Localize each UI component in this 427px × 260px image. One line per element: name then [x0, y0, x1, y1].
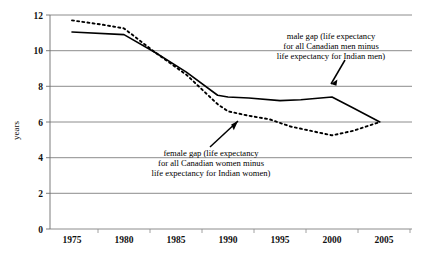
- female-gap-annotation-line-1: female gap (life expectancy: [118, 148, 304, 158]
- y-axis-ticks: [46, 15, 50, 229]
- x-tick-label-1995: 1995: [271, 235, 290, 245]
- x-tick-label-1980: 1980: [115, 235, 134, 245]
- male-gap-annotation: male gap (life expectancy for all Canadi…: [238, 31, 424, 62]
- female-gap-annotation-line-2: for all Canadian women minus: [118, 158, 304, 168]
- male-gap-annotation-line-3: life expectancy for Indian men): [238, 51, 424, 61]
- x-tick-label-2000: 2000: [323, 235, 342, 245]
- female-gap-annotation-line-3: life expectancy for Indian women): [118, 168, 304, 178]
- male-gap-arrow-icon: [331, 60, 345, 86]
- y-axis-title: years: [11, 121, 21, 140]
- y-tick-label-8: 8: [38, 82, 43, 92]
- female-gap-arrow-icon: [210, 121, 238, 147]
- x-tick-label-1985: 1985: [167, 235, 186, 245]
- female-gap-annotation: female gap (life expectancy for all Cana…: [118, 148, 304, 179]
- y-tick-label-2: 2: [38, 189, 43, 199]
- male-gap-annotation-line-2: for all Canadian men minus: [238, 41, 424, 51]
- y-tick-label-0: 0: [38, 225, 43, 235]
- x-tick-label-2005: 2005: [375, 235, 394, 245]
- y-tick-label-4: 4: [38, 153, 43, 163]
- chart-container: 12 10 8 6 4 2 0 1975 1980 1985 1990 1995…: [0, 0, 427, 260]
- y-tick-label-10: 10: [34, 46, 44, 56]
- y-tick-label-6: 6: [38, 118, 43, 128]
- x-axis-ticks: [98, 229, 410, 233]
- male-gap-annotation-line-1: male gap (life expectancy: [238, 31, 424, 41]
- y-tick-label-12: 12: [34, 11, 44, 21]
- x-tick-label-1990: 1990: [219, 235, 238, 245]
- x-tick-label-1975: 1975: [63, 235, 82, 245]
